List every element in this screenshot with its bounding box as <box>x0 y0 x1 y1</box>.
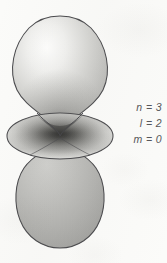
quantum-number-labels: n = 3 l = 2 m = 0 <box>133 99 162 147</box>
orbital-figure: n = 3 l = 2 m = 0 <box>0 0 167 263</box>
label-principal-quantum-number: n = 3 <box>133 99 162 115</box>
label-azimuthal-quantum-number: l = 2 <box>133 115 162 131</box>
label-magnetic-quantum-number: m = 0 <box>133 131 162 147</box>
